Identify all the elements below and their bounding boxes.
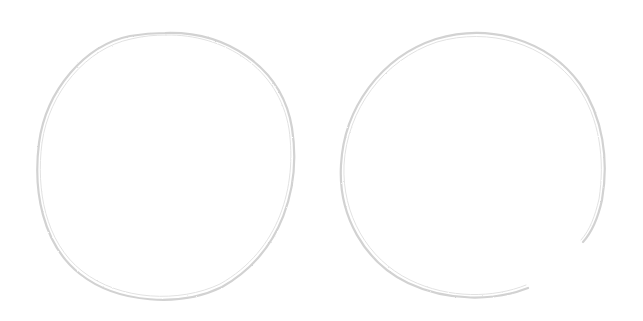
drawing-canvas	[0, 0, 643, 321]
paper-background	[0, 0, 643, 321]
